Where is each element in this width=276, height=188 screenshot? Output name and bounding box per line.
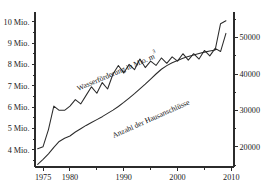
series-label-2: Anzahl der Hausanschlüsse (111, 97, 192, 139)
left-tick-label: 10 Mio. (4, 18, 30, 27)
right-axis-tick-labels: 20000300004000050000 (240, 33, 260, 151)
x-tick-label: 1975 (35, 173, 51, 182)
x-tick-label: 1980 (62, 173, 78, 182)
left-tick-label: 4 Mio. (8, 146, 30, 155)
left-tick-label: 5 Mio. (8, 124, 30, 133)
series-label-text: Anzahl der Hausanschlüsse (111, 97, 192, 139)
chart-canvas: 4 Mio.5 Mio.6 Mio.7 Mio.8 Mio.9 Mio.10 M… (0, 0, 276, 188)
plot-frame (35, 12, 234, 167)
right-tick-label: 20000 (240, 143, 260, 152)
series-label-text: Wasserförderung in Mio. m (75, 52, 156, 93)
chart-container: 4 Mio.5 Mio.6 Mio.7 Mio.8 Mio.9 Mio.10 M… (0, 0, 276, 188)
x-tick-label: 2010 (223, 173, 239, 182)
left-tick-label: 9 Mio. (8, 39, 30, 48)
right-tick-label: 40000 (240, 70, 260, 79)
series-line-2 (38, 21, 226, 165)
right-tick-label: 30000 (240, 106, 260, 115)
x-tick-label: 1990 (116, 173, 132, 182)
left-tick-label: 7 Mio. (8, 82, 30, 91)
x-axis-tick-labels: 19751980199020002010 (35, 173, 240, 182)
left-tick-label: 6 Mio. (8, 103, 30, 112)
series-lines (38, 21, 226, 165)
left-axis-tick-labels: 4 Mio.5 Mio.6 Mio.7 Mio.8 Mio.9 Mio.10 M… (4, 18, 30, 155)
left-tick-label: 8 Mio. (8, 60, 30, 69)
x-tick-label: 2000 (169, 173, 185, 182)
right-tick-label: 50000 (240, 33, 260, 42)
series-label-1: Wasserförderung in Mio. m3 (74, 48, 159, 93)
